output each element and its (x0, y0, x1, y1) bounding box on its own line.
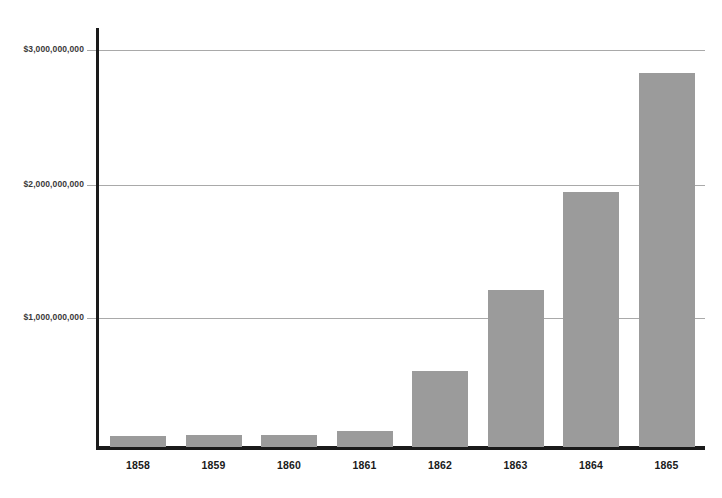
x-axis-label-1859: 1859 (186, 459, 242, 471)
bar-1861 (337, 431, 393, 447)
bar-1863 (488, 290, 544, 447)
x-axis-label-1865: 1865 (639, 459, 695, 471)
x-axis-label-1858: 1858 (110, 459, 166, 471)
bars-layer: 18581859186018611862186318641865 (0, 0, 722, 498)
bar-1865 (639, 73, 695, 447)
x-axis-label-1863: 1863 (488, 459, 544, 471)
x-axis-label-1864: 1864 (563, 459, 619, 471)
x-axis-label-1861: 1861 (337, 459, 393, 471)
bar-1862 (412, 371, 468, 447)
bar-1859 (186, 435, 242, 447)
bar-1858 (110, 436, 166, 447)
x-axis-label-1860: 1860 (261, 459, 317, 471)
bar-1860 (261, 435, 317, 447)
x-axis-label-1862: 1862 (412, 459, 468, 471)
bar-chart-figure: $3,000,000,000 $2,000,000,000 $1,000,000… (0, 0, 722, 498)
bar-1864 (563, 192, 619, 447)
